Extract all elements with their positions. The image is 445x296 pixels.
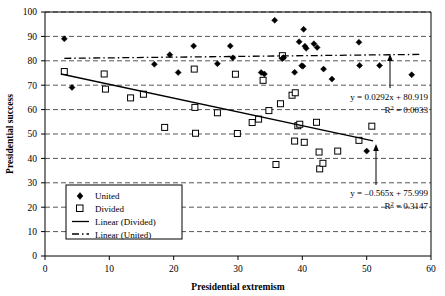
- divided-equation-annotation: y = –0.565x + 75.999 R2 = 0.3147: [350, 188, 428, 211]
- united-r2-text: R2 = 0.0033: [384, 104, 428, 116]
- y-tick-label-40: 40: [28, 154, 38, 164]
- y-tick-label-90: 90: [28, 32, 38, 42]
- y-tick-label-60: 60: [28, 105, 38, 115]
- divided-r2-text: R2 = 0.3147: [384, 200, 428, 212]
- y-axis-tick-labels: 100 90 80 70 60 50 40 30 20 10 0: [23, 7, 38, 261]
- data-point-united: [191, 43, 197, 49]
- data-point-divided: [214, 110, 220, 116]
- data-point-united: [292, 69, 298, 75]
- data-point-divided: [162, 124, 168, 130]
- data-point-united: [230, 55, 236, 61]
- data-point-united: [364, 148, 370, 154]
- divided-equation-arrow: [373, 144, 379, 185]
- data-point-divided: [193, 130, 199, 136]
- data-point-united: [409, 72, 415, 78]
- united-equation-annotation: y = 0.0292x + 80.919 R2 = 0.0033: [350, 92, 428, 115]
- trendline-united: [64, 54, 421, 58]
- y-tick-label-20: 20: [28, 203, 38, 213]
- data-point-divided: [266, 108, 272, 114]
- divided-equation-text: y = –0.565x + 75.999: [350, 188, 428, 198]
- data-point-divided: [192, 104, 198, 110]
- data-point-divided: [101, 71, 107, 77]
- chart-container: 100 90 80 70 60 50 40 30 20 10 0 0 10 20: [0, 0, 445, 296]
- data-point-divided: [273, 162, 279, 168]
- data-point-divided: [292, 138, 298, 144]
- data-point-united: [175, 70, 181, 76]
- data-point-united: [301, 26, 307, 32]
- data-point-united: [377, 62, 383, 68]
- x-tick-label-60: 60: [426, 264, 436, 274]
- x-tick-label-20: 20: [169, 264, 179, 274]
- x-tick-label-50: 50: [362, 264, 372, 274]
- data-point-divided: [313, 119, 319, 125]
- data-point-united: [357, 62, 363, 68]
- chart-legend[interactable]: United Divided Linear (Divided) Linear (…: [66, 185, 182, 240]
- data-point-divided: [369, 123, 375, 129]
- y-tick-label-50: 50: [28, 129, 38, 139]
- data-point-united: [321, 66, 327, 72]
- y-tick-label-0: 0: [32, 251, 37, 261]
- data-point-divided: [277, 101, 283, 107]
- data-point-united: [272, 17, 278, 23]
- data-point-divided: [292, 90, 298, 96]
- united-equation-arrow: [387, 54, 393, 88]
- data-point-divided: [234, 131, 240, 137]
- data-point-united: [296, 39, 302, 45]
- annotation-arrows: [373, 54, 393, 185]
- legend-label-linear-united: Linear (United): [95, 230, 151, 240]
- legend-label-united: United: [95, 191, 120, 201]
- data-point-divided: [191, 66, 197, 72]
- x-tick-label-10: 10: [105, 264, 115, 274]
- legend-marker-open-square-icon: [77, 205, 84, 212]
- data-point-divided: [232, 71, 238, 77]
- data-point-divided: [301, 139, 307, 145]
- data-point-divided: [317, 166, 323, 172]
- data-point-divided: [335, 148, 341, 154]
- divided-r2-rest: = 0.3147: [394, 201, 429, 211]
- united-equation-text: y = 0.0292x + 80.919: [350, 92, 428, 102]
- y-tick-label-70: 70: [28, 81, 38, 91]
- x-axis-ticks: [45, 256, 431, 260]
- legend-label-linear-divided: Linear (Divided): [95, 217, 156, 227]
- trendline-divided: [61, 74, 373, 141]
- legend-label-divided: Divided: [95, 204, 124, 214]
- data-point-united: [227, 43, 233, 49]
- data-point-divided: [249, 120, 255, 126]
- x-axis-tick-labels: 0 10 20 30 40 50 60: [43, 264, 436, 274]
- y-tick-label-30: 30: [28, 178, 38, 188]
- data-point-divided: [260, 77, 266, 83]
- data-point-united: [356, 39, 362, 45]
- x-tick-label-40: 40: [298, 264, 308, 274]
- y-tick-label-10: 10: [28, 227, 38, 237]
- data-point-divided: [316, 149, 322, 155]
- arrow-head-divided: [373, 144, 379, 151]
- data-point-divided: [320, 160, 326, 166]
- x-tick-label-0: 0: [43, 264, 48, 274]
- united-r2-rest: = 0.0033: [394, 105, 429, 115]
- data-point-united: [151, 61, 157, 67]
- data-point-divided: [102, 86, 108, 92]
- x-axis-title: Presidential extremism: [191, 282, 284, 292]
- data-point-divided: [128, 95, 134, 101]
- series-divided-points: [61, 53, 375, 172]
- scatter-plot: 100 90 80 70 60 50 40 30 20 10 0 0 10 20: [0, 0, 445, 296]
- data-point-united: [329, 76, 335, 82]
- y-tick-label-100: 100: [23, 7, 38, 17]
- x-tick-label-30: 30: [233, 264, 243, 274]
- y-axis-ticks: [41, 12, 45, 256]
- y-axis-title: Presidential success: [5, 94, 15, 174]
- y-tick-label-80: 80: [28, 56, 38, 66]
- data-point-united: [214, 61, 220, 67]
